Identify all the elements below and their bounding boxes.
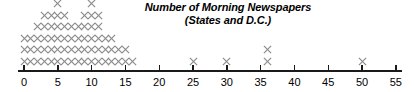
data-point-x-mark — [60, 11, 69, 20]
axis-tick-label: 55 — [381, 76, 411, 89]
data-point-x-mark — [358, 57, 367, 66]
data-point-x-mark — [87, 0, 96, 8]
data-point-x-mark — [94, 11, 103, 20]
data-point-x-mark — [189, 57, 198, 66]
axis-tick-label: 20 — [144, 76, 174, 89]
axis-tick-label: 25 — [178, 76, 208, 89]
data-point-x-mark — [94, 22, 103, 31]
data-point-x-mark — [121, 45, 130, 54]
data-point-x-mark — [222, 57, 231, 66]
axis-tick-label: 5 — [43, 76, 73, 89]
axis-tick-label: 40 — [279, 76, 309, 89]
axis-line — [18, 70, 402, 72]
data-point-x-mark — [128, 57, 137, 66]
dot-plot-figure: Number of Morning Newspapers (States and… — [0, 0, 414, 92]
axis-tick-label: 15 — [110, 76, 140, 89]
dot-stack-field — [0, 0, 414, 70]
data-point-x-mark — [263, 57, 272, 66]
axis-tick-label: 0 — [9, 76, 39, 89]
data-point-x-mark — [263, 45, 272, 54]
data-point-x-mark — [107, 34, 116, 43]
axis-tick-label: 50 — [347, 76, 377, 89]
axis-tick-label: 30 — [212, 76, 242, 89]
axis-tick-label: 45 — [313, 76, 343, 89]
axis-tick-label: 10 — [77, 76, 107, 89]
axis-tick-label: 35 — [246, 76, 276, 89]
data-point-x-mark — [53, 0, 62, 8]
